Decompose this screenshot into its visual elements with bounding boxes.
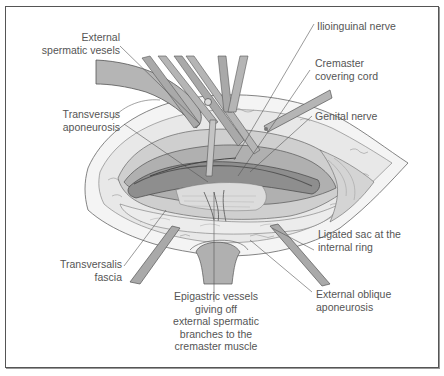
label-epigastric-vessels: Epigastric vessels giving off external s… bbox=[164, 290, 268, 353]
label-genital-nerve: Genital nerve bbox=[315, 110, 377, 123]
label-cremaster-covering-cord: Cremaster covering cord bbox=[315, 57, 378, 82]
label-transversalis-fascia: Transversalis fascia bbox=[40, 258, 122, 283]
label-ligated-sac: Ligated sac at the internal ring bbox=[318, 228, 401, 253]
label-transversus-aponeurosis: Transversus aponeurosis bbox=[40, 108, 120, 133]
label-external-spermatic-vessels: External spermatic vesels bbox=[40, 31, 120, 56]
label-ilioinguinal-nerve: Ilioinguinal nerve bbox=[317, 20, 396, 33]
label-external-oblique-aponeurosis: External oblique aponeurosis bbox=[316, 288, 391, 313]
